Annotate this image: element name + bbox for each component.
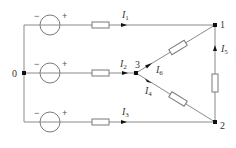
branch-top: − + I1 (24, 9, 215, 35)
resistor-2-1 (212, 74, 218, 92)
arrow-i6-icon (145, 63, 152, 69)
circuit-diagram: − + I1 − + I2 − + I3 I6 (0, 0, 236, 148)
branch-3-to-1: I6 (136, 25, 215, 77)
node-0 (22, 71, 26, 75)
resistor-3-2 (169, 92, 187, 107)
current-label-i5: I5 (220, 43, 228, 56)
node-label-2: 2 (220, 120, 225, 131)
source-middle-plus: + (62, 59, 67, 69)
source-middle-minus: − (34, 59, 39, 69)
source-bottom-plus: + (62, 108, 67, 118)
resistor-bottom (92, 119, 109, 125)
source-top-plus: + (62, 11, 67, 21)
resistor-middle (92, 70, 109, 76)
node-label-1: 1 (220, 19, 225, 30)
current-label-i3: I3 (121, 106, 129, 119)
node-3 (134, 71, 138, 75)
current-label-i6: I6 (155, 64, 163, 77)
branch-bottom: − + I3 (24, 106, 215, 132)
branch-middle: − + I2 (24, 58, 136, 83)
current-label-i2: I2 (119, 58, 127, 71)
node-1 (213, 23, 217, 27)
current-label-i4: I4 (144, 85, 152, 98)
resistor-top (92, 22, 109, 28)
arrow-i2-icon (122, 71, 128, 75)
arrow-i5-icon (213, 45, 217, 51)
resistor-3-1 (169, 40, 187, 54)
arrow-i1-icon (121, 23, 127, 27)
node-label-3: 3 (135, 59, 140, 70)
current-label-i1: I1 (121, 9, 129, 22)
source-bottom-minus: − (34, 108, 39, 118)
node-2 (213, 120, 217, 124)
branch-3-to-2: I4 (136, 73, 215, 122)
branch-2-to-1: I5 (212, 25, 228, 122)
node-label-0: 0 (12, 68, 17, 79)
arrow-i3-icon (121, 120, 127, 124)
source-top-minus: − (34, 11, 39, 21)
